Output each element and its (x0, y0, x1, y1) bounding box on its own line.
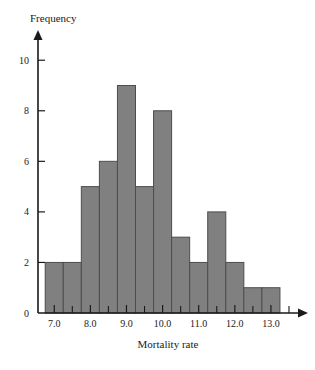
x-axis-label: Mortality rate (138, 338, 199, 350)
histogram-bar (99, 161, 117, 313)
x-tick-label: 11.0 (190, 318, 207, 329)
y-tick-label: 2 (24, 257, 29, 268)
y-tick-label: 0 (24, 308, 29, 319)
x-tick-label: 12.0 (226, 318, 244, 329)
histogram-bar (63, 262, 81, 313)
histogram-bar (208, 212, 226, 313)
y-tick-label: 8 (24, 105, 29, 116)
y-axis-arrow-icon (34, 30, 43, 40)
x-tick-label: 8.0 (84, 318, 97, 329)
x-tick-label: 10.0 (154, 318, 172, 329)
histogram-bar (136, 187, 154, 313)
histogram-bar (81, 187, 99, 313)
histogram-chart: 0246810 7.08.09.010.011.012.013.0 Freque… (0, 0, 315, 370)
y-axis-label: Frequency (30, 12, 77, 24)
y-tick-label: 4 (24, 206, 29, 217)
x-axis-arrow-icon (298, 309, 308, 318)
y-ticks-group: 0246810 (19, 55, 45, 319)
histogram-bar (172, 237, 190, 313)
histogram-bar (154, 111, 172, 313)
histogram-bar (117, 86, 135, 314)
bars-group (45, 86, 280, 314)
x-tick-label: 9.0 (120, 318, 133, 329)
x-tick-label: 7.0 (48, 318, 61, 329)
y-tick-label: 6 (24, 156, 29, 167)
chart-canvas: 0246810 7.08.09.010.011.012.013.0 Freque… (0, 0, 315, 370)
x-tick-label: 13.0 (262, 318, 280, 329)
y-tick-label: 10 (19, 55, 29, 66)
